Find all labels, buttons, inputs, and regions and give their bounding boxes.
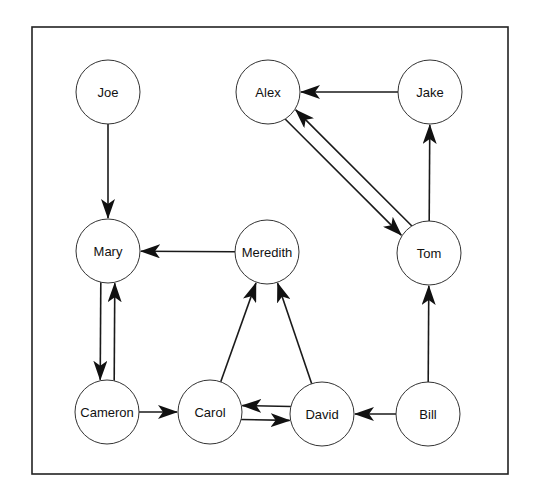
edge-meredith-to-mary-arrow xyxy=(141,251,235,252)
node-label: Jake xyxy=(416,85,443,100)
node-meredith: Meredith xyxy=(235,220,299,284)
node-tom: Tom xyxy=(397,221,461,285)
node-label: Tom xyxy=(417,246,442,261)
edge-tom-to-alex-arrow xyxy=(296,110,412,226)
node-label: Alex xyxy=(255,85,281,100)
edge-david-to-meredith-arrow xyxy=(278,283,312,383)
edge-alex-to-tom-arrow xyxy=(285,119,401,235)
node-bill: Bill xyxy=(396,382,460,446)
node-carol: Carol xyxy=(178,380,242,444)
edge-mary-to-cameron-arrow xyxy=(100,282,101,380)
node-label: Carol xyxy=(194,405,225,420)
nodes-layer: JoeAlexJakeMaryMeredithTomCameronCarolDa… xyxy=(75,60,462,446)
node-label: Mary xyxy=(94,244,123,259)
node-cameron: Cameron xyxy=(75,380,139,444)
edge-carol-to-david-arrow xyxy=(241,420,290,421)
node-label: Joe xyxy=(98,85,119,100)
graph-diagram: JoeAlexJakeMaryMeredithTomCameronCarolDa… xyxy=(0,0,535,503)
edge-david-to-carol-arrow xyxy=(242,406,291,407)
edge-tom-to-jake-arrow xyxy=(429,125,430,221)
node-label: Bill xyxy=(419,407,436,422)
node-label: David xyxy=(305,407,338,422)
node-label: Cameron xyxy=(80,405,133,420)
node-label: Meredith xyxy=(242,245,293,260)
edge-carol-to-meredith-arrow xyxy=(221,283,256,382)
edge-bill-to-tom-arrow xyxy=(428,286,429,382)
node-alex: Alex xyxy=(236,60,300,124)
node-joe: Joe xyxy=(76,60,140,124)
node-jake: Jake xyxy=(398,60,462,124)
edge-cameron-to-mary-arrow xyxy=(114,283,115,381)
node-david: David xyxy=(290,382,354,446)
node-mary: Mary xyxy=(76,219,140,283)
